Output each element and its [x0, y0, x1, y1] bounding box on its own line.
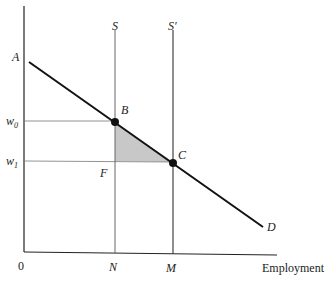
label-b: B — [121, 103, 129, 117]
label-f: F — [99, 166, 108, 180]
demand-line-ad — [29, 62, 263, 227]
point-b — [111, 118, 119, 126]
x-axis-label: Employment — [262, 261, 325, 275]
point-c — [169, 159, 177, 167]
label-s-prime: S′ — [168, 19, 177, 33]
labor-market-diagram: A D S S′ B C F w0 w1 0 N M Employment — [0, 0, 326, 281]
x-axis — [24, 252, 277, 255]
label-n: N — [108, 260, 118, 274]
label-c: C — [178, 148, 187, 162]
label-origin: 0 — [18, 259, 24, 273]
label-a: A — [11, 50, 20, 64]
label-w0: w0 — [6, 114, 18, 130]
label-s: S — [112, 19, 118, 33]
label-w1: w1 — [6, 154, 18, 170]
label-m: M — [165, 261, 177, 275]
label-d: D — [266, 220, 276, 234]
